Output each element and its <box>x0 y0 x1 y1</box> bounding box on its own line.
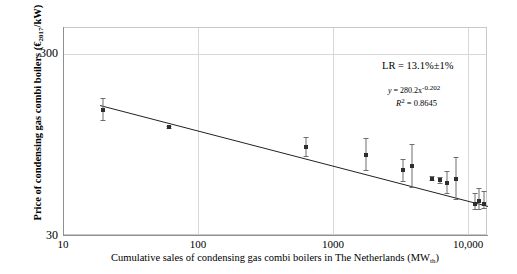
error-bar-cap <box>410 187 415 188</box>
error-bar-cap <box>400 181 405 182</box>
data-point <box>101 108 105 112</box>
y-axis-title-tail: /kW) <box>32 5 43 28</box>
x-axis-title-main: Cumulative sales of condensing gas combi… <box>111 252 430 263</box>
x-axis-title-tail: ) <box>435 252 439 263</box>
error-bar-cap <box>364 170 369 171</box>
data-point <box>364 153 368 157</box>
data-point <box>482 202 486 206</box>
y-axis-title-subscript: 2017 <box>37 27 45 41</box>
figure-root: 300 30 10 100 1000 10,000 Price of conde… <box>0 0 517 274</box>
x-axis-title: Cumulative sales of condensing gas combi… <box>63 252 487 267</box>
x-axis-line <box>63 235 488 236</box>
x-tick-label-10: 10 <box>48 239 78 250</box>
data-point <box>430 177 434 181</box>
error-bar-cap <box>453 157 458 158</box>
annotation-block: LR = 13.1%±1% y = 280.2x-0.202 R2 = 0.86… <box>382 60 512 109</box>
x-tick-label-10000: 10,000 <box>447 239 489 250</box>
fit-equation: y = 280.2x-0.202 <box>382 83 512 96</box>
fit-equation-exponent: -0.202 <box>422 84 440 92</box>
error-bar-cap <box>453 199 458 200</box>
x-tick-label-100: 100 <box>183 239 213 250</box>
data-point <box>438 178 442 182</box>
error-bar-cap <box>303 137 308 138</box>
error-bar-cap <box>303 156 308 157</box>
error-bar-cap <box>473 193 478 194</box>
data-point <box>454 177 458 181</box>
error-bar-cap <box>101 98 106 99</box>
error-bar-cap <box>400 159 405 160</box>
error-bar-cap <box>444 193 449 194</box>
error-bar-cap <box>477 188 482 189</box>
error-bar-cap <box>444 171 449 172</box>
data-point <box>445 181 449 185</box>
y-axis-title-currency: € <box>32 41 43 46</box>
data-point <box>401 168 405 172</box>
data-point <box>167 125 171 129</box>
y-axis-title: Price of condensing gas combi boilers (€… <box>32 11 47 221</box>
error-bar-cap <box>438 183 443 184</box>
fit-equation-body: = 280.2x <box>392 86 423 95</box>
error-bar-cap <box>410 144 415 145</box>
plot-area <box>63 27 487 235</box>
learning-rate-label: LR = 13.1%±1% <box>382 60 512 72</box>
data-point <box>410 164 414 168</box>
data-point <box>473 202 477 206</box>
error-bar-cap <box>101 120 106 121</box>
error-bar-cap <box>482 191 487 192</box>
y-axis-line <box>63 27 64 236</box>
y-axis-title-main: Price of condensing gas combi boilers ( <box>32 47 43 221</box>
r-squared-value: = 0.8645 <box>405 98 437 108</box>
x-tick-label-1000: 1000 <box>318 239 348 250</box>
error-bar-cap <box>364 138 369 139</box>
r-squared-label: R2 = 0.8645 <box>382 96 512 109</box>
error-bar-cap <box>482 208 487 209</box>
data-point <box>304 145 308 149</box>
data-point <box>477 199 481 203</box>
error-bar-cap <box>477 209 482 210</box>
